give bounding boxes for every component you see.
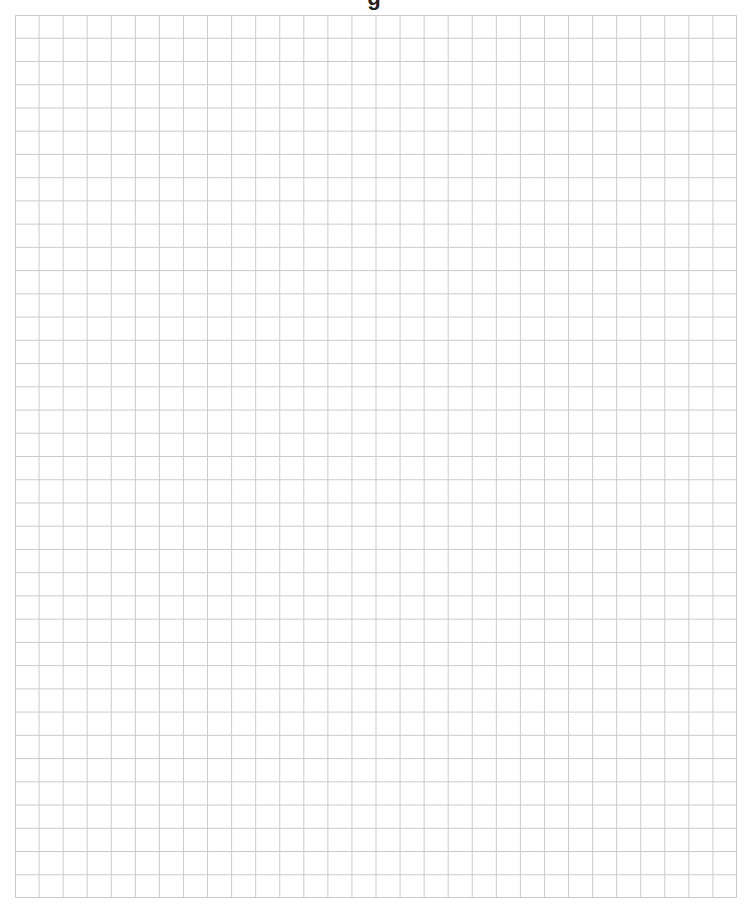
grid-lines [15,15,737,898]
page-title: g [0,0,748,9]
graph-paper-grid [15,15,737,898]
